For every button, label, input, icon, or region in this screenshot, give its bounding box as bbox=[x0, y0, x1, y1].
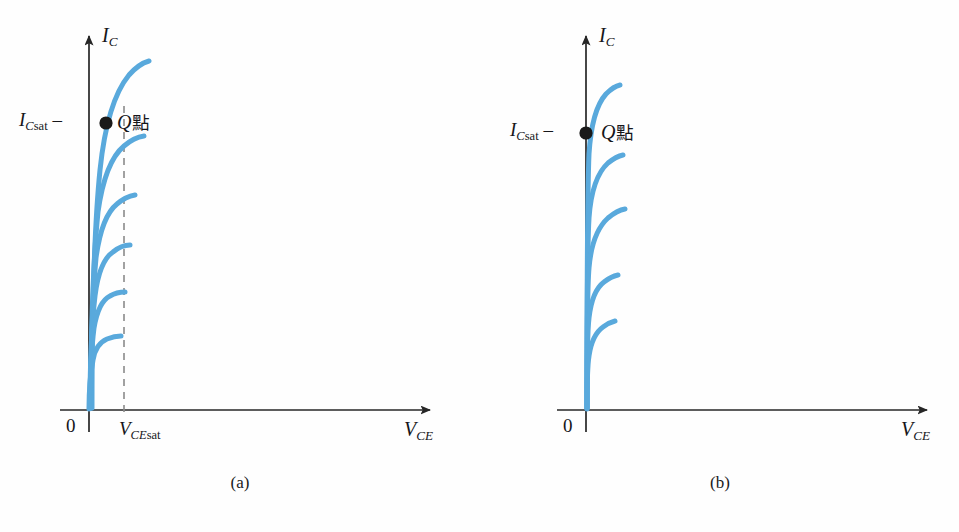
caption-a: (a) bbox=[190, 473, 290, 493]
figure-root: IC ICsat– Q點 0 VCEsat VCE (a) bbox=[0, 0, 959, 532]
cut-off-caption-strip bbox=[330, 521, 630, 530]
y-axis-label-b: IC bbox=[599, 25, 614, 48]
y-tick-label-icsat-b: ICsat– bbox=[510, 120, 553, 142]
q-point-label-a: Q點 bbox=[117, 112, 150, 133]
q-point-marker-b bbox=[579, 126, 592, 139]
panel-a: IC ICsat– Q點 0 VCEsat VCE (a) bbox=[0, 0, 480, 532]
origin-label-b: 0 bbox=[563, 416, 573, 435]
x-axis-label-b: VCE bbox=[901, 419, 930, 442]
x-tick-label-vcesat-a: VCEsat bbox=[119, 419, 161, 441]
y-tick-label-icsat-a: ICsat– bbox=[19, 110, 62, 132]
origin-label-a: 0 bbox=[66, 416, 76, 435]
curve-ib1-b bbox=[587, 321, 615, 409]
x-axis-label-a: VCE bbox=[404, 419, 433, 442]
y-axis-label-a: IC bbox=[102, 25, 117, 48]
panel-b-plot bbox=[479, 0, 959, 532]
panel-b: IC ICsat– Q點 0 VCE (b) bbox=[479, 0, 959, 532]
q-point-marker-a bbox=[99, 116, 112, 129]
q-point-label-b: Q點 bbox=[601, 122, 634, 143]
caption-b: (b) bbox=[670, 473, 770, 493]
panel-a-plot bbox=[0, 0, 480, 532]
